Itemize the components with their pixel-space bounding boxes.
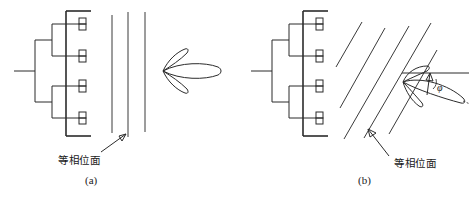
- equiphase-leader-a: [101, 134, 126, 152]
- array-elements-b: [303, 18, 323, 124]
- panel-caption-a: (a): [85, 174, 97, 186]
- equiphase-label-b: 等相位面: [394, 155, 436, 170]
- phased-array-figure: 等相位面 (a): [0, 0, 474, 199]
- steer-angle-indicator-b: [426, 73, 436, 95]
- panel-b: φ 等相位面 (b): [237, 0, 474, 199]
- panel-a-drawing: [0, 0, 237, 199]
- feed-network-a: [14, 24, 66, 118]
- array-elements-a: [66, 18, 86, 124]
- beam-pattern-a: [163, 49, 221, 94]
- panel-a: 等相位面 (a): [0, 0, 237, 199]
- feed-network-b: [251, 24, 303, 118]
- equiphase-label-a: 等相位面: [58, 152, 100, 167]
- panel-caption-b: (b): [358, 174, 371, 186]
- steer-angle-label-b: φ: [437, 82, 443, 93]
- phase-fronts-a: [112, 12, 145, 137]
- panel-b-drawing: [237, 0, 474, 199]
- equiphase-leader-b: [368, 129, 389, 156]
